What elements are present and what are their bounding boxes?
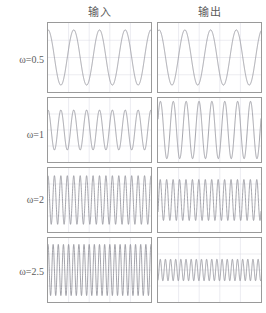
waveform-panel-输入-omega-1 [47,97,152,163]
row-label-omega-2: ω=2 [2,194,44,205]
row-label-omega-0-5: ω=0.5 [2,54,44,65]
frequency-response-figure: 输入 输出 ω=0.5 ω=1 ω=2 ω=2.5 [0,0,266,313]
column-header-input: 输入 [47,5,152,21]
waveform-panel-输入-omega-2.5 [47,237,152,303]
waveform-panel-输入-omega-0.5 [47,22,152,93]
column-header-output: 输出 [157,5,262,21]
row-label-omega-2-5: ω=2.5 [2,266,44,277]
waveform-panel-输出-omega-2 [157,167,262,233]
waveform-panel-输出-omega-0.5 [157,22,262,93]
waveform-panel-输出-omega-1 [157,97,262,163]
waveform-panel-输入-omega-2 [47,167,152,233]
waveform-panel-输出-omega-2.5 [157,237,262,303]
row-label-omega-1: ω=1 [2,129,44,140]
